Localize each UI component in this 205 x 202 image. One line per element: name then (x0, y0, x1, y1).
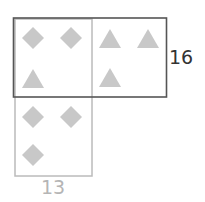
diamond-icon (22, 27, 44, 49)
diamond-icon (22, 106, 44, 128)
triangle-icon (99, 68, 121, 87)
light-box-label: 13 (41, 176, 65, 198)
triangle-icon (22, 69, 44, 88)
venn-box-diagram (0, 0, 205, 202)
triangle-icon (137, 29, 159, 48)
diamond-icon (22, 144, 44, 166)
diamond-icon (60, 106, 82, 128)
triangle-icon (99, 29, 121, 48)
diamond-icon (60, 27, 82, 49)
dark-box-label: 16 (169, 46, 193, 68)
